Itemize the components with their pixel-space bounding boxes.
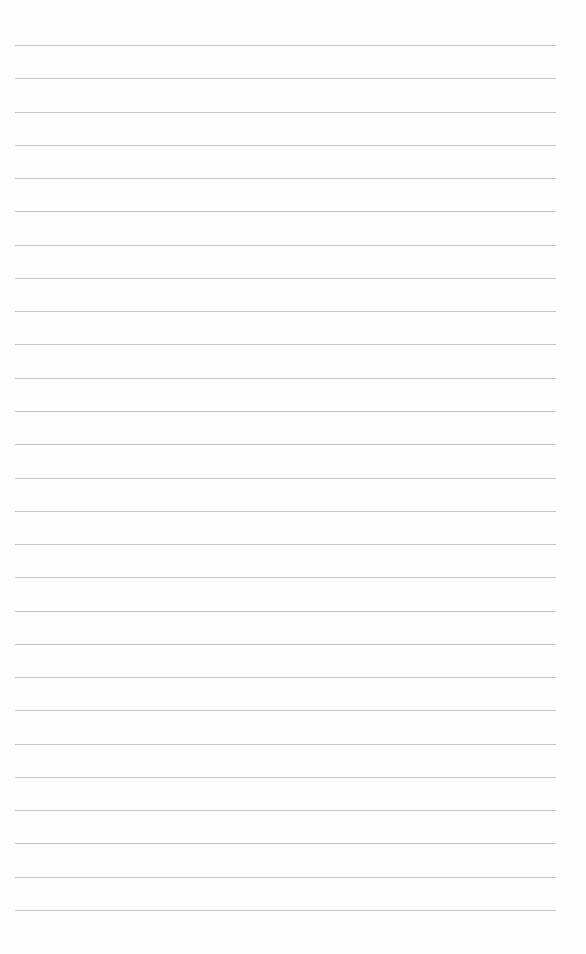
ruled-line (15, 78, 556, 79)
ruled-line (15, 877, 556, 878)
ruled-line (15, 112, 556, 113)
ruled-line (15, 777, 556, 778)
ruled-line (15, 910, 556, 911)
ruled-line (15, 810, 556, 811)
ruled-line (15, 843, 556, 844)
ruled-line (15, 178, 556, 179)
ruled-line (15, 444, 556, 445)
ruled-line (15, 45, 556, 46)
ruled-line (15, 577, 556, 578)
ruled-line (15, 211, 556, 212)
ruled-line (15, 378, 556, 379)
ruled-line (15, 344, 556, 345)
ruled-line (15, 677, 556, 678)
ruled-line (15, 311, 556, 312)
ruled-line (15, 411, 556, 412)
ruled-line (15, 611, 556, 612)
ruled-line (15, 245, 556, 246)
ruled-line (15, 544, 556, 545)
lined-paper (0, 0, 586, 954)
ruled-line (15, 744, 556, 745)
ruled-line (15, 710, 556, 711)
ruled-line (15, 644, 556, 645)
ruled-line (15, 278, 556, 279)
ruled-line (15, 478, 556, 479)
ruled-line (15, 511, 556, 512)
ruled-line (15, 145, 556, 146)
